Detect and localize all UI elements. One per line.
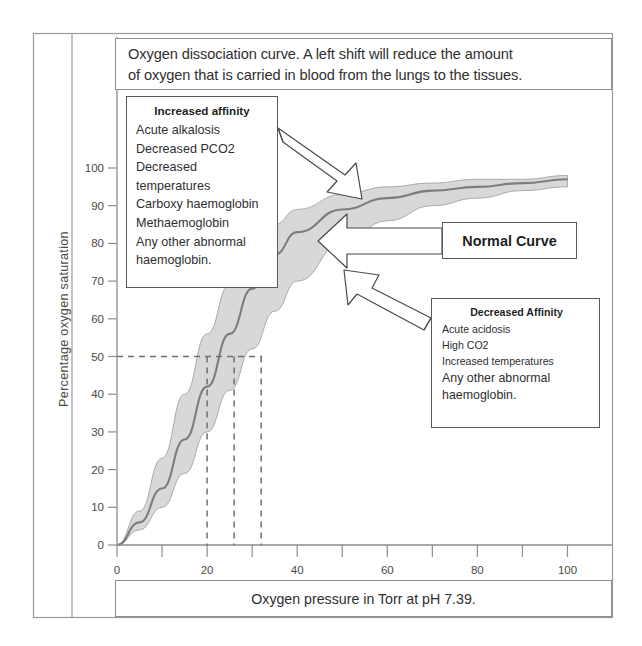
arrow-increased-affinity: [278, 128, 362, 199]
chart-title-box: Oxygen dissociation curve. A left shift …: [115, 38, 612, 90]
y-tick-label: 80: [91, 237, 104, 249]
callout-decreased-item: Acute acidosis: [442, 321, 599, 337]
y-tick-label: 10: [91, 501, 104, 513]
x-tick-label: 0: [114, 564, 120, 576]
callout-normal-label: Normal Curve: [462, 233, 556, 249]
x-tick-label: 80: [471, 564, 484, 576]
x-tick-label: 40: [291, 564, 304, 576]
x-tick-label: 20: [201, 564, 214, 576]
x-tick-label: 60: [381, 564, 394, 576]
x-axis-title: Oxygen pressure in Torr at pH 7.39.: [251, 591, 475, 607]
callout-increased-affinity: Increased affinity Acute alkalosis Decre…: [126, 96, 278, 288]
callout-increased-item: Acute alkalosis: [136, 121, 277, 140]
callout-increased-item: Any other abnormal: [136, 233, 277, 252]
callout-increased-item: Decreased: [136, 158, 277, 177]
y-tick-label: 70: [91, 275, 104, 287]
figure-root: 0102030405060708090100020406080100 Oxyge…: [0, 0, 642, 646]
y-tick-label: 100: [85, 162, 104, 174]
callout-increased-item: Methaemoglobin: [136, 214, 277, 233]
callout-decreased-item: Increased temperatures: [442, 353, 599, 369]
callout-increased-item: Decreased PCO2: [136, 140, 277, 159]
callout-increased-item: haemoglobin.: [136, 251, 277, 270]
callout-decreased-item: High CO2: [442, 337, 599, 353]
y-tick-label: 30: [91, 426, 104, 438]
y-tick-label: 90: [91, 200, 104, 212]
callout-increased-item: temperatures: [136, 177, 277, 196]
callout-decreased-heading: Decreased Affinity: [442, 306, 591, 318]
y-tick-label: 50: [91, 351, 104, 363]
callout-increased-heading: Increased affinity: [136, 104, 268, 117]
arrow-decreased-affinity: [344, 270, 431, 330]
callout-decreased-affinity: Decreased Affinity Acute acidosis High C…: [431, 298, 600, 428]
callout-decreased-item: haemoglobin.: [442, 387, 599, 405]
y-tick-label: 20: [91, 464, 104, 476]
callout-normal-curve: Normal Curve: [442, 222, 577, 259]
title-line-1: Oxygen dissociation curve. A left shift …: [128, 44, 601, 65]
y-tick-label: 0: [98, 539, 104, 551]
x-tick-label: 100: [558, 564, 577, 576]
callout-decreased-item: Any other abnormal: [442, 370, 599, 388]
x-axis-title-box: Oxygen pressure in Torr at pH 7.39.: [115, 580, 612, 617]
y-tick-label: 60: [91, 313, 104, 325]
y-axis-title: Percentage oxygen saturation: [57, 189, 71, 449]
y-tick-label: 40: [91, 388, 104, 400]
callout-increased-item: Carboxy haemoglobin: [136, 195, 277, 214]
title-line-2: of oxygen that is carried in blood from …: [128, 65, 601, 86]
